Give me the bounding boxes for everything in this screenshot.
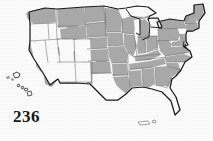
state-nm <box>76 62 91 82</box>
state-in <box>137 37 146 54</box>
page-number: 236 <box>13 108 40 125</box>
state-mo <box>108 46 128 63</box>
state-wy <box>60 26 86 40</box>
state-sd <box>86 22 106 37</box>
inset-puerto-rico <box>138 120 156 125</box>
alaska-aleutians <box>6 76 14 81</box>
state-mn <box>105 8 122 32</box>
state-ut <box>58 39 74 62</box>
state-ia <box>107 33 123 46</box>
inset-hawaii <box>17 84 32 96</box>
hawaii-bigisland <box>27 91 32 96</box>
hawaii-kauai <box>17 84 20 87</box>
state-ms <box>129 70 142 87</box>
hawaii-maui <box>24 88 28 91</box>
state-az <box>57 63 76 82</box>
virgin-islands <box>152 120 156 123</box>
us-map-figure: 236 <box>0 0 213 141</box>
inset-alaska <box>6 72 20 81</box>
alaska-outline <box>13 72 20 78</box>
state-nd <box>85 7 105 23</box>
state-ar <box>112 64 128 76</box>
puerto-rico-outline <box>138 121 150 125</box>
state-al <box>142 68 155 88</box>
hawaii-oahu <box>21 86 24 89</box>
state-ok <box>88 62 111 74</box>
state-co <box>75 39 91 61</box>
lake-michigan <box>134 20 140 35</box>
